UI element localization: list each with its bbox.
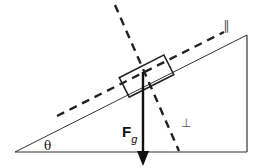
inclined-plane-diagram: θ Fg ∥ ⊥ (0, 0, 266, 168)
parallel-axis-label: ∥ (223, 19, 230, 32)
gravity-force-arrow (137, 72, 149, 166)
force-symbol: F (122, 123, 131, 140)
force-subscript: g (131, 133, 137, 145)
perpendicular-axis-label: ⊥ (181, 117, 191, 129)
angle-theta-label: θ (44, 140, 51, 152)
gravity-force-label: Fg (122, 124, 137, 143)
parallel-axis-dashed (57, 32, 224, 116)
